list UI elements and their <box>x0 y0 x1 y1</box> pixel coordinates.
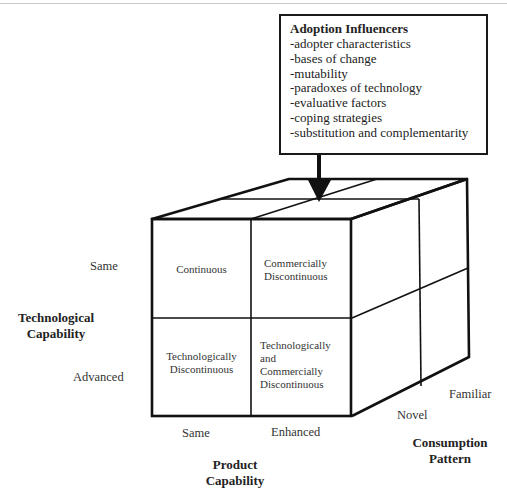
cell-line: Technologically <box>260 339 350 352</box>
influencer-item: -evaluative factors <box>290 96 468 111</box>
cell-continuous: Continuous <box>152 263 251 276</box>
cell-line: Continuous <box>152 263 251 276</box>
cell-technologically-discontinuous: Technologically Discontinuous <box>152 350 251 376</box>
influencer-item: -coping strategies <box>290 111 468 126</box>
axis-title-line: Capability <box>6 326 106 342</box>
product-level-same: Same <box>182 426 210 441</box>
axis-title-line: Capability <box>180 473 290 489</box>
influencer-item: -mutability <box>290 67 468 82</box>
cell-line: and <box>260 352 350 365</box>
consumption-pattern-title: Consumption Pattern <box>400 435 500 467</box>
cell-commercially-discontinuous: Commercially Discontinuous <box>264 257 352 283</box>
cell-line: Commercially <box>260 365 350 378</box>
cell-line: Commercially <box>264 257 352 270</box>
influencer-item: -paradoxes of technology <box>290 81 468 96</box>
cell-line: Discontinuous <box>260 378 350 391</box>
adoption-influencers-box: Adoption Influencers -adopter characteri… <box>279 14 488 155</box>
tech-level-advanced: Advanced <box>73 370 124 385</box>
axis-title-line: Consumption <box>400 435 500 451</box>
cell-tech-and-commercially-discontinuous: Technologically and Commercially Discont… <box>260 339 350 391</box>
product-level-enhanced: Enhanced <box>271 425 320 440</box>
consumption-level-novel: Novel <box>397 408 428 423</box>
cell-line: Discontinuous <box>264 270 352 283</box>
technological-capability-title: Technological Capability <box>6 310 106 342</box>
adoption-influencers-title: Adoption Influencers <box>290 21 408 36</box>
consumption-level-familiar: Familiar <box>449 387 491 402</box>
axis-title-line: Product <box>180 457 290 473</box>
influencer-item: -adopter characteristics <box>290 37 468 52</box>
tech-level-same: Same <box>90 259 118 274</box>
product-capability-title: Product Capability <box>180 457 290 489</box>
cell-line: Technologically <box>152 350 251 363</box>
influencer-item: -bases of change <box>290 52 468 67</box>
influencer-item: -substitution and complementarity <box>290 126 468 141</box>
axis-title-line: Pattern <box>400 451 500 467</box>
adoption-influencers-list: -adopter characteristics -bases of chang… <box>290 37 468 141</box>
cube-side-face <box>351 179 469 416</box>
cell-line: Discontinuous <box>152 363 251 376</box>
axis-title-line: Technological <box>6 310 106 326</box>
